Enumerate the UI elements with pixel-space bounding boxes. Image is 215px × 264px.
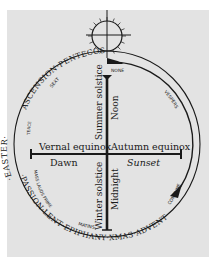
autumn-equinox-label: Autumn equinox xyxy=(110,141,191,152)
sunset-label: Sunset xyxy=(127,157,160,168)
midnight-label: Midnight xyxy=(110,168,120,210)
vespers-label: VESPERS xyxy=(163,89,179,109)
dawn-label: Dawn xyxy=(50,157,78,168)
summer-solstice-label: Summer solstice xyxy=(94,64,104,140)
hours-arc-start xyxy=(107,58,124,64)
ascension-pentecost-label: ASCENSION·PENTECOST xyxy=(0,0,106,112)
matins-label: MATINS xyxy=(78,221,95,230)
noon-label: Noon xyxy=(110,95,120,120)
liturgical-clock-diagram: Vernal equinox Dawn Autumn equinox Sunse… xyxy=(0,0,215,264)
easter-label: ·EASTER· xyxy=(0,135,14,182)
vernal-equinox-label: Vernal equinox xyxy=(38,141,112,152)
winter-solstice-label: Winter solstice xyxy=(94,162,104,230)
terce-label: TERCE xyxy=(26,121,32,136)
sext-label: SEXT xyxy=(49,76,61,88)
none-label: NONE xyxy=(111,68,124,73)
